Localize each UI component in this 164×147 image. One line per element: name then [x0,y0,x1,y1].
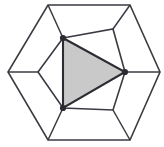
vertex-marker-right [122,69,128,75]
vertex-marker-bottom [60,105,66,111]
geometric-figure-container [0,0,164,147]
vertex-marker-top [60,35,66,41]
geometric-figure-svg [0,0,164,147]
